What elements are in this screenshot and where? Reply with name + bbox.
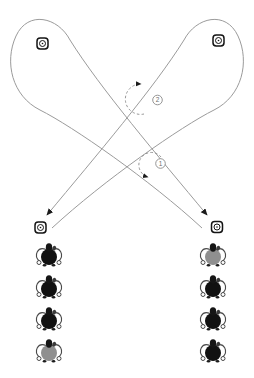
step1-label: 1: [156, 159, 166, 169]
dancer-figure-icon: [37, 339, 62, 362]
dance-path-diagram: 2 1: [0, 0, 254, 378]
dancer-figure-icon: [201, 275, 226, 298]
dancer-figure-icon: [201, 339, 226, 362]
step1-number: 1: [159, 160, 163, 167]
dancer-figure-icon: [201, 307, 226, 330]
dancer-column-right: [201, 243, 226, 362]
dancer-figure-icon: [37, 275, 62, 298]
dancer-figure-icon: [201, 243, 226, 266]
dancer-column-left: [37, 243, 62, 362]
position-marker-top-left-icon: [37, 38, 48, 49]
position-marker-top-right-icon: [213, 35, 224, 46]
dancer-figure-icon: [37, 307, 62, 330]
step2-label: 2: [153, 95, 163, 105]
step2-number: 2: [156, 96, 160, 103]
dancer-figure-icon: [37, 243, 62, 266]
diagram-svg: 2 1: [0, 0, 254, 378]
position-marker-bottom-left-icon: [35, 222, 46, 233]
position-marker-bottom-right-icon: [212, 222, 223, 233]
